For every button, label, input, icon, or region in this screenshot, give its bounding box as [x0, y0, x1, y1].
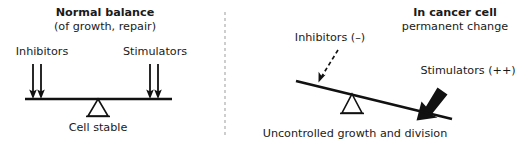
left-panel-inhibitor-arrows — [29, 64, 45, 99]
seesaw-diagram-figure: Normal balance (of growth, repair) Inhib… — [0, 0, 525, 147]
left-panel-subheading: (of growth, repair) — [54, 20, 156, 33]
left-panel-group: Normal balance (of growth, repair) Inhib… — [16, 6, 188, 134]
right-panel-beam — [296, 81, 452, 119]
right-panel-inhibitors-label: Inhibitors (–) — [295, 31, 365, 44]
diagram-canvas: Normal balance (of growth, repair) Inhib… — [0, 0, 525, 147]
left-panel-stimulator-arrows — [146, 64, 162, 99]
right-panel-caption: Uncontrolled growth and division — [263, 127, 448, 140]
left-panel-stimulators-label: Stimulators — [123, 45, 187, 58]
left-panel-caption: Cell stable — [69, 121, 128, 134]
dashed-diagonal-arrow-icon — [319, 50, 339, 83]
right-panel-heading: In cancer cell — [413, 6, 497, 19]
right-panel-stimulators-label: Stimulators (++) — [420, 64, 515, 77]
down-arrow-icon — [29, 64, 37, 99]
right-panel-subheading: permanent change — [402, 20, 508, 33]
left-panel-fulcrum-triangle — [88, 99, 108, 116]
down-arrow-icon — [37, 64, 45, 99]
right-panel-group: In cancer cell permanent change Inhibito… — [263, 6, 516, 140]
left-panel-heading: Normal balance — [56, 6, 155, 19]
down-arrow-icon — [154, 64, 162, 99]
down-arrow-icon — [146, 64, 154, 99]
left-panel-inhibitors-label: Inhibitors — [16, 45, 69, 58]
